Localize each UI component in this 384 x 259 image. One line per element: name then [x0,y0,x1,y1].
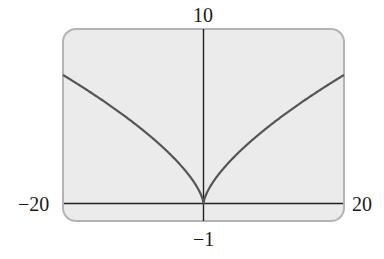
xmax-label: 20 [352,194,372,214]
xmin-label: −20 [18,194,49,214]
graph-window [0,0,384,259]
ymax-label: 10 [193,5,213,25]
ymin-label: −1 [193,229,214,249]
